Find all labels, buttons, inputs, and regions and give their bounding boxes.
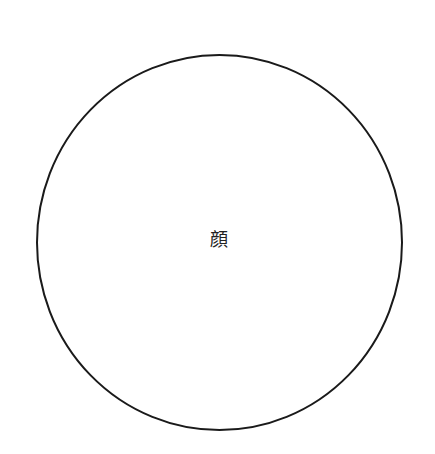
circle-label: 顔 bbox=[199, 228, 239, 252]
diagram-canvas bbox=[0, 0, 435, 454]
